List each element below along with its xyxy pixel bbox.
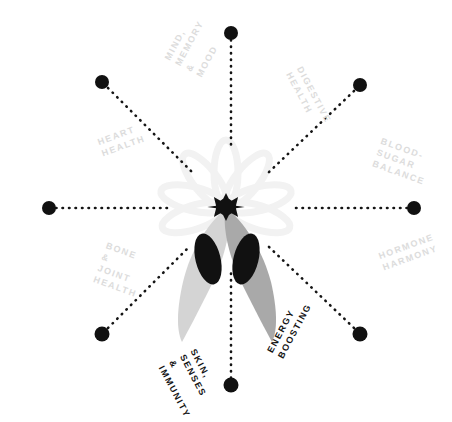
diagram-svg	[0, 0, 452, 422]
radial-diagram-canvas: MIND, MEMORY & MOOD DIGESTIVE HEALTH HEA…	[0, 0, 452, 422]
node-lower-left	[95, 327, 110, 342]
node-left	[42, 201, 56, 215]
node-bottom	[224, 378, 239, 393]
node-upper-left	[95, 75, 109, 89]
node-lower-right	[353, 327, 368, 342]
node-right	[407, 201, 421, 215]
node-upper-right	[353, 78, 367, 92]
